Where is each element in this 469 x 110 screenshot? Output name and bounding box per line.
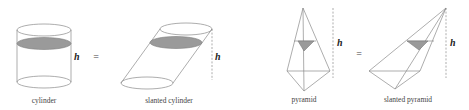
pyramid-edge-left [287, 8, 303, 71]
pyramid-height-label: h [337, 37, 343, 48]
slanted-cylinder-left-edge [121, 29, 160, 83]
slanted-cylinder-bottom-ellipse [121, 77, 173, 89]
slanted-cylinder-cross-section [150, 37, 202, 49]
slanted-pyramid-figure: h slanted pyramid [369, 8, 456, 104]
equals-sign-2: = [356, 48, 362, 59]
cylinder-bottom-ellipse [17, 76, 71, 88]
slanted-cylinder-figure: h slanted cylinder [121, 23, 221, 105]
slanted-cylinder-top-ellipse [160, 23, 212, 35]
slanted-cylinder-caption: slanted cylinder [145, 96, 193, 105]
cylinder-top-ellipse [17, 24, 71, 36]
pyramid-cross-section [298, 41, 314, 51]
slanted-pyramid-height-label: h [450, 37, 456, 48]
equals-sign-1: = [93, 51, 99, 62]
slanted-pyramid-cross-section [407, 41, 428, 50]
cylinder-caption: cylinder [32, 96, 57, 105]
pyramid-figure: h pyramid [287, 8, 343, 104]
slanted-pyramid-edge-left [369, 8, 446, 71]
slanted-pyramid-edge-right [420, 8, 446, 71]
cylinder-figure: h cylinder [17, 24, 80, 105]
cavalieri-diagram: h cylinder = h slanted cylinder h pyrami… [0, 0, 469, 110]
pyramid-caption: pyramid [292, 95, 317, 104]
slanted-pyramid-caption: slanted pyramid [384, 95, 432, 104]
pyramid-edge-right [303, 8, 330, 71]
pyramid-base-front [287, 71, 330, 91]
slanted-pyramid-base-front [369, 71, 420, 89]
cylinder-height-label: h [74, 51, 80, 62]
slanted-cylinder-height-label: h [215, 51, 221, 62]
cylinder-cross-section [17, 38, 71, 50]
